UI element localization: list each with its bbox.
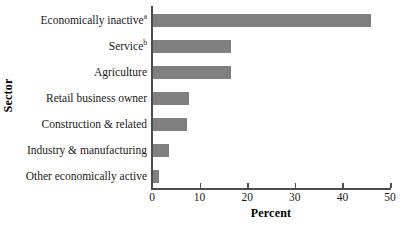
x-tick-label: 20 xyxy=(241,191,253,203)
x-tick-label: 50 xyxy=(384,191,396,203)
footnote-marker: b xyxy=(143,38,147,47)
x-tick-label: 0 xyxy=(149,191,155,203)
category-label: Industry & manufacturing xyxy=(27,144,147,157)
x-tick-mark xyxy=(390,183,392,188)
bar xyxy=(152,40,231,53)
x-tick-label: 30 xyxy=(289,191,301,203)
bar xyxy=(152,92,189,105)
bar-chart: Sector Economically inactiveaServicebAgr… xyxy=(0,0,401,229)
plot-area xyxy=(152,6,390,188)
x-tick-mark xyxy=(342,183,344,188)
x-tick-mark xyxy=(247,183,249,188)
bar xyxy=(152,118,187,131)
category-label-column: Economically inactiveaServicebAgricultur… xyxy=(18,6,150,188)
bar xyxy=(152,66,231,79)
category-label: Agriculture xyxy=(94,66,147,79)
category-label: Other economically active xyxy=(26,170,147,183)
x-tick-mark xyxy=(200,183,202,188)
x-tick-label: 40 xyxy=(337,191,349,203)
category-label: Serviceb xyxy=(109,40,147,53)
category-label: Construction & related xyxy=(42,118,147,131)
x-axis-title: Percent xyxy=(151,206,391,221)
x-tick-mark xyxy=(295,183,297,188)
x-tick-label: 10 xyxy=(194,191,206,203)
category-label: Retail business owner xyxy=(46,92,147,105)
bar xyxy=(152,170,159,183)
footnote-marker: a xyxy=(144,12,147,21)
y-axis-title: Sector xyxy=(0,0,18,190)
y-axis-line xyxy=(151,6,153,189)
x-axis-line xyxy=(151,188,391,190)
bar xyxy=(152,14,371,27)
category-label: Economically inactivea xyxy=(41,14,147,27)
y-axis-title-text: Sector xyxy=(2,78,17,112)
bar xyxy=(152,144,169,157)
